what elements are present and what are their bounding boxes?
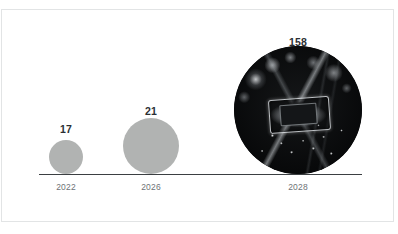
clipped-text-fragment: · · · · · (369, 0, 392, 1)
chart-card: 17 2022 21 2026 158 2028 (1, 9, 394, 222)
value-label-2026: 21 (145, 105, 157, 117)
bubble-circle-2022[interactable] (49, 140, 83, 174)
chart-baseline-axis (39, 174, 362, 175)
chart-plot-area: 17 2022 21 2026 158 2028 (2, 10, 393, 221)
bubble-circle-2026[interactable] (123, 118, 179, 174)
category-label-2022: 2022 (56, 182, 76, 192)
category-label-2028: 2028 (288, 182, 308, 192)
value-label-2022: 17 (60, 123, 72, 135)
category-label-2026: 2026 (141, 182, 161, 192)
bubble-circle-2028-chip-photo[interactable] (234, 46, 362, 174)
cpu-die-icon (279, 103, 317, 127)
clipped-top-text: · · · · · (0, 0, 398, 3)
